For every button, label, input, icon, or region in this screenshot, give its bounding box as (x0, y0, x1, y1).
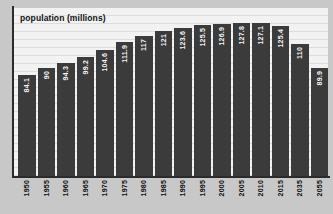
x-axis-label-cell: 1990 (174, 180, 192, 212)
x-axis-label: 1955 (43, 180, 50, 196)
x-axis-label-cell: 1960 (57, 180, 75, 212)
y-axis-line (12, 6, 14, 178)
bar[interactable]: 125.5 (194, 25, 212, 176)
bar[interactable]: 89.9 (311, 68, 329, 176)
bar-value-label: 110 (296, 47, 303, 59)
x-axis-label-cell: 2035 (291, 180, 309, 212)
x-axis-label: 2010 (257, 180, 264, 196)
x-axis-line (12, 176, 330, 178)
bar-column: 110 (291, 8, 309, 176)
bar[interactable]: 99.2 (77, 57, 95, 176)
x-axis-label-cell: 1950 (18, 180, 36, 212)
bar-value-label: 127.1 (257, 26, 264, 45)
bar-value-label: 125.5 (199, 28, 206, 47)
bar[interactable]: 125.4 (272, 26, 290, 176)
bar[interactable]: 123.6 (174, 28, 192, 176)
bar-value-label: 127.8 (238, 26, 245, 45)
bar-column: 127.8 (233, 8, 251, 176)
bar-value-label: 94.3 (62, 66, 69, 80)
x-axis-label: 1980 (140, 180, 147, 196)
x-axis-label: 1985 (160, 180, 167, 196)
bar-value-label: 104.6 (101, 53, 108, 72)
x-axis-label-cell: 1980 (135, 180, 153, 212)
bar[interactable]: 104.6 (96, 50, 114, 176)
x-axis-label-cell: 2005 (233, 180, 251, 212)
x-axis-label: 1960 (62, 180, 69, 196)
x-axis-label-cell: 2055 (311, 180, 329, 212)
bar-value-label: 89.9 (316, 71, 323, 85)
x-axis-label-cell: 1975 (116, 180, 134, 212)
bar-column: 123.6 (174, 8, 192, 176)
x-axis-label: 2035 (296, 180, 303, 196)
x-axis-label-cell: 1965 (77, 180, 95, 212)
bar-column: 89.9 (311, 8, 329, 176)
bar[interactable]: 84.1 (18, 75, 36, 176)
x-axis-label: 2055 (316, 180, 323, 196)
bar-column: 90 (38, 8, 56, 176)
x-axis-label: 1975 (121, 180, 128, 196)
bar-column: 94.3 (57, 8, 75, 176)
population-bar-chart: population (millions) 84.19094.399.2104.… (0, 0, 333, 214)
bar[interactable]: 111.9 (116, 42, 134, 176)
bar-column: 104.6 (96, 8, 114, 176)
x-axis-label-cell: 2015 (272, 180, 290, 212)
bar[interactable]: 90 (38, 68, 56, 176)
bar-value-label: 125.4 (277, 29, 284, 48)
x-axis-label: 1970 (101, 180, 108, 196)
bar-column: 125.5 (194, 8, 212, 176)
x-axis-label: 2005 (238, 180, 245, 196)
bar[interactable]: 110 (291, 44, 309, 176)
bar-value-label: 117 (140, 39, 147, 51)
bar-value-label: 126.9 (218, 27, 225, 46)
bar-column: 126.9 (213, 8, 231, 176)
bar-column: 127.1 (252, 8, 270, 176)
bar-value-label: 90 (43, 71, 50, 79)
bar[interactable]: 127.8 (233, 23, 251, 176)
bar-series: 84.19094.399.2104.6111.9117121123.6125.5… (18, 8, 328, 176)
bar[interactable]: 94.3 (57, 63, 75, 176)
bar-value-label: 99.2 (82, 60, 89, 74)
chart-title: population (millions) (20, 13, 106, 23)
x-axis-label: 1965 (82, 180, 89, 196)
bar-value-label: 111.9 (121, 45, 128, 63)
bar-column: 125.4 (272, 8, 290, 176)
x-axis-label: 2000 (218, 180, 225, 196)
bar-column: 121 (155, 8, 173, 176)
bar-value-label: 121 (160, 34, 167, 46)
bar-column: 99.2 (77, 8, 95, 176)
x-axis-label: 1950 (23, 180, 30, 196)
x-axis-label-cell: 1985 (155, 180, 173, 212)
x-axis-label-cell: 1970 (96, 180, 114, 212)
x-axis-label: 1990 (179, 180, 186, 196)
bar-value-label: 84.1 (23, 78, 30, 92)
x-axis-label-cell: 2000 (213, 180, 231, 212)
x-axis-label: 2015 (277, 180, 284, 196)
bar-column: 117 (135, 8, 153, 176)
bar-value-label: 123.6 (179, 31, 186, 50)
bar[interactable]: 121 (155, 31, 173, 176)
bar[interactable]: 126.9 (213, 24, 231, 176)
x-axis-labels: 1950195519601965197019751980198519901995… (18, 180, 328, 212)
bar[interactable]: 127.1 (252, 23, 270, 176)
x-axis-label-cell: 1995 (194, 180, 212, 212)
x-axis-label-cell: 2010 (252, 180, 270, 212)
bar-column: 111.9 (116, 8, 134, 176)
bar-column: 84.1 (18, 8, 36, 176)
x-axis-label-cell: 1955 (38, 180, 56, 212)
x-axis-label: 1995 (199, 180, 206, 196)
bar[interactable]: 117 (135, 36, 153, 176)
